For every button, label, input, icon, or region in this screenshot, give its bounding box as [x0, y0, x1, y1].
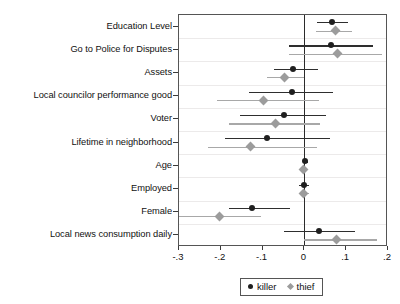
data-point-thief: [299, 188, 309, 198]
confidence-interval-bar: [225, 138, 330, 139]
y-axis-category-labels: Education LevelGo to Police for Disputes…: [0, 14, 172, 246]
data-point-thief: [215, 211, 225, 221]
gridline: [179, 177, 386, 178]
data-point-thief: [332, 49, 342, 59]
data-point-killer: [316, 228, 322, 234]
data-point-killer: [301, 182, 307, 188]
y-axis-label: Age: [0, 160, 172, 170]
gridline: [179, 224, 386, 225]
y-axis-label: Go to Police for Disputes: [0, 44, 172, 54]
data-point-thief: [270, 118, 280, 128]
x-axis-tick: [387, 246, 388, 250]
gridline: [179, 38, 386, 39]
y-axis-label: Employed: [0, 183, 172, 193]
gridline: [179, 108, 386, 109]
data-point-killer: [329, 19, 335, 25]
y-axis-label: Local news consumption daily: [0, 229, 172, 239]
legend-entry-thief: thief: [288, 281, 315, 292]
gridline: [179, 154, 386, 155]
data-point-killer: [290, 66, 296, 72]
plot-area: [178, 14, 387, 246]
data-point-killer: [289, 89, 295, 95]
data-point-killer: [249, 205, 255, 211]
y-axis-label: Assets: [0, 67, 172, 77]
x-axis-tick: [220, 246, 221, 250]
gridline: [179, 85, 386, 86]
data-point-thief: [246, 142, 256, 152]
gridline: [179, 201, 386, 202]
diamond-marker-icon: [286, 283, 293, 290]
data-point-thief: [258, 95, 268, 105]
data-point-thief: [332, 234, 342, 244]
y-axis-label: Lifetime in neighborhood: [0, 137, 172, 147]
x-axis-tick: [303, 246, 304, 250]
x-axis-tick: [345, 246, 346, 250]
legend-label: killer: [257, 281, 277, 292]
coefficient-plot-figure: Education LevelGo to Police for Disputes…: [0, 0, 400, 304]
x-axis-tick-label: 0: [301, 251, 306, 262]
legend: killerthief: [240, 278, 323, 296]
gridline: [179, 131, 386, 132]
y-axis-label: Local councilor performance good: [0, 90, 172, 100]
x-axis-tick: [262, 246, 263, 250]
x-axis-tick-label: .2: [383, 251, 391, 262]
data-point-killer: [281, 112, 287, 118]
y-axis-label: Education Level: [0, 21, 172, 31]
x-axis-tick-label: -.3: [172, 251, 183, 262]
data-point-thief: [330, 26, 340, 36]
y-axis-label: Female: [0, 206, 172, 216]
circle-marker-icon: [248, 284, 253, 289]
legend-entry-killer: killer: [248, 281, 277, 292]
legend-label: thief: [297, 281, 315, 292]
confidence-interval-bar: [274, 69, 318, 70]
data-point-thief: [299, 165, 309, 175]
gridline: [179, 61, 386, 62]
x-axis-tick-label: -.2: [214, 251, 225, 262]
x-axis-tick-label: -.1: [256, 251, 267, 262]
y-axis-label: Voter: [0, 113, 172, 123]
x-axis-tick-label: .1: [341, 251, 349, 262]
data-point-thief: [279, 72, 289, 82]
data-point-killer: [328, 42, 334, 48]
x-axis: -.3-.2-.10.1.2: [178, 246, 387, 268]
data-point-killer: [264, 135, 270, 141]
x-axis-tick: [178, 246, 179, 250]
confidence-interval-bar: [229, 208, 290, 209]
zero-reference-line: [304, 15, 305, 245]
confidence-interval-bar: [208, 147, 317, 148]
